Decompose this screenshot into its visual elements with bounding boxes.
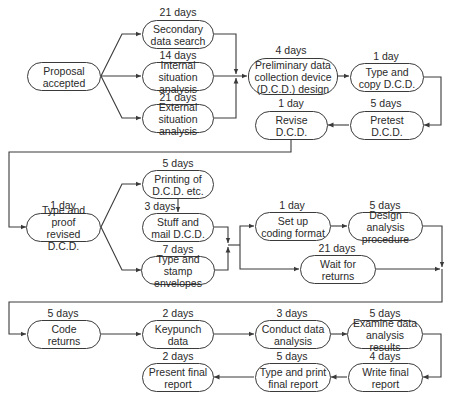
node-label: Secondary data search <box>151 23 206 47</box>
node-type-and-print-final-report: Type and print final report <box>255 363 331 392</box>
duration-label: 3 days <box>277 307 308 319</box>
node-label: Wait for returns <box>320 258 356 282</box>
node-label: Set up coding format <box>261 215 325 239</box>
duration-label: 1 day <box>279 199 305 211</box>
duration-label: 2 days <box>163 307 194 319</box>
node-proposal-accepted: Proposal accepted <box>27 62 101 91</box>
node-stuff-and-mail-dcd: Stuff and mail D.C.D. <box>142 213 214 242</box>
node-set-up-coding-format: Set up coding format <box>255 212 331 241</box>
node-label: Printing of D.C.D. etc. <box>152 173 203 197</box>
duration-label: 1 day <box>373 50 399 62</box>
node-examine-data-analysis-results: Examine data analysis results <box>347 320 423 349</box>
node-label: Conduct data analysis <box>262 323 324 347</box>
node-write-final-report: Write final report <box>348 363 423 392</box>
node-type-and-copy-dcd: Type and copy D.C.D. <box>350 63 424 92</box>
node-label: Type and proof revised D.C.D. <box>30 204 97 252</box>
node-secondary-data-search: Secondary data search <box>142 20 214 49</box>
node-label: Type and print final report <box>260 366 327 390</box>
node-label: Stuff and mail D.C.D. <box>151 216 205 240</box>
duration-label: 21 days <box>319 242 356 254</box>
duration-label: 5 days <box>163 157 194 169</box>
node-label: Pretest D.C.D. <box>370 114 403 138</box>
node-printing-of-dcd: Printing of D.C.D. etc. <box>142 170 214 199</box>
node-wait-for-returns: Wait for returns <box>300 255 376 284</box>
duration-label: 3 days <box>145 200 176 212</box>
duration-label: 2 days <box>163 350 194 362</box>
node-label: Revise D.C.D. <box>275 114 307 138</box>
node-external-situation-analysis: External situation analysis <box>142 104 214 133</box>
node-label: Examine data analysis results <box>351 317 419 353</box>
duration-label: 4 days <box>276 44 307 56</box>
node-internal-situation-analysis: Internal situation analysis <box>142 62 214 91</box>
node-type-and-stamp-envelopes: Type and stamp envelopes <box>141 256 215 285</box>
node-label: Type and copy D.C.D. <box>359 66 416 90</box>
node-pretest-dcd: Pretest D.C.D. <box>350 111 424 140</box>
node-label: Write final report <box>362 366 409 390</box>
node-revise-dcd: Revise D.C.D. <box>255 111 328 140</box>
node-label: Preliminary data collection device (D.C.… <box>254 59 331 95</box>
duration-label: 21 days <box>160 6 197 18</box>
node-design-analysis-procedure: Design analysis procedure <box>348 212 423 241</box>
node-label: Design analysis procedure <box>352 209 419 245</box>
node-label: Present final report <box>149 366 207 390</box>
duration-label: 5 days <box>371 97 402 109</box>
node-label: Keypunch data <box>155 323 202 347</box>
node-conduct-data-analysis: Conduct data analysis <box>255 320 331 349</box>
duration-label: 5 days <box>277 350 308 362</box>
duration-label: 5 days <box>48 307 79 319</box>
node-preliminary-dcd-design: Preliminary data collection device (D.C.… <box>248 58 338 95</box>
node-label: External situation analysis <box>146 101 210 137</box>
node-keypunch-data: Keypunch data <box>142 320 214 349</box>
node-label: Proposal accepted <box>43 65 86 89</box>
node-present-final-report: Present final report <box>142 363 214 392</box>
duration-label: 4 days <box>370 350 401 362</box>
node-type-and-proof-revised-dcd: Type and proof revised D.C.D. <box>26 213 101 242</box>
node-label: Internal situation analysis <box>146 59 210 95</box>
duration-label: 1 day <box>278 97 304 109</box>
node-code-returns: Code returns <box>27 320 101 349</box>
node-label: Code returns <box>48 323 81 347</box>
node-label: Type and stamp envelopes <box>145 253 211 289</box>
